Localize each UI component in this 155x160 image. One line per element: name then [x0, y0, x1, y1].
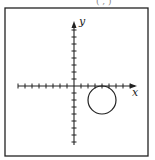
y-axis-label: y [78, 15, 86, 28]
header-partial-text: ( , ) [96, 0, 112, 6]
coordinate-diagram: ( , ) x y [0, 0, 155, 160]
y-axis-arrow-icon [72, 21, 77, 28]
x-axis-label: x [132, 86, 139, 99]
circle [88, 86, 116, 114]
axes [18, 21, 137, 145]
